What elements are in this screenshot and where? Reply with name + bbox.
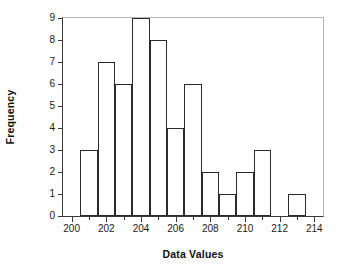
x-axis-minor-tick <box>89 216 90 220</box>
x-axis-tick-label: 214 <box>306 224 323 234</box>
y-axis-tick <box>58 62 63 63</box>
y-axis-tick-label: 5 <box>49 101 55 111</box>
x-axis-tick-label: 204 <box>133 224 150 234</box>
x-axis-minor-tick <box>158 216 159 220</box>
y-axis-tick-label: 3 <box>49 145 55 155</box>
x-axis-tick <box>106 216 107 222</box>
x-axis-tick <box>176 216 177 222</box>
x-axis-tick-label: 206 <box>167 224 184 234</box>
y-axis-tick <box>58 194 63 195</box>
y-axis-tick-label: 2 <box>49 167 55 177</box>
x-axis-tick <box>245 216 246 222</box>
y-axis-tick <box>58 128 63 129</box>
x-axis-minor-tick <box>124 216 125 220</box>
x-axis-minor-tick <box>297 216 298 220</box>
x-axis-tick <box>72 216 73 222</box>
y-axis-tick-label: 8 <box>49 35 55 45</box>
y-axis-tick <box>58 150 63 151</box>
y-axis-tick <box>58 84 63 85</box>
y-axis-tick <box>58 172 63 173</box>
x-axis-tick <box>210 216 211 222</box>
y-axis-tick-label: 9 <box>49 13 55 23</box>
x-axis-tick <box>141 216 142 222</box>
x-axis-minor-tick <box>193 216 194 220</box>
y-axis-tick-label: 0 <box>49 211 55 221</box>
y-axis-tick <box>58 18 63 19</box>
x-axis-minor-tick <box>228 216 229 220</box>
x-axis-tick <box>314 216 315 222</box>
y-axis-tick-label: 7 <box>49 57 55 67</box>
y-axis-tick-label: 4 <box>49 123 55 133</box>
x-axis-tick-label: 212 <box>271 224 288 234</box>
histogram-chart: Frequency 0123456789 2002022042062082102… <box>0 0 347 271</box>
y-axis-tick <box>58 40 63 41</box>
x-axis-tick-label: 200 <box>63 224 80 234</box>
y-axis-tick <box>58 106 63 107</box>
x-axis-tick-label: 210 <box>237 224 254 234</box>
y-axis-ticks: 0123456789 <box>63 18 323 216</box>
x-axis-tick <box>280 216 281 222</box>
y-axis-tick <box>58 216 63 217</box>
x-axis-minor-tick <box>262 216 263 220</box>
y-axis-tick-label: 1 <box>49 189 55 199</box>
x-axis-tick-label: 208 <box>202 224 219 234</box>
x-axis-title: Data Values <box>62 248 324 260</box>
y-axis-title: Frequency <box>4 90 16 145</box>
x-axis-tick-label: 202 <box>98 224 115 234</box>
y-axis-tick-label: 6 <box>49 79 55 89</box>
plot-area: 0123456789 200202204206208210212214 <box>62 17 324 217</box>
